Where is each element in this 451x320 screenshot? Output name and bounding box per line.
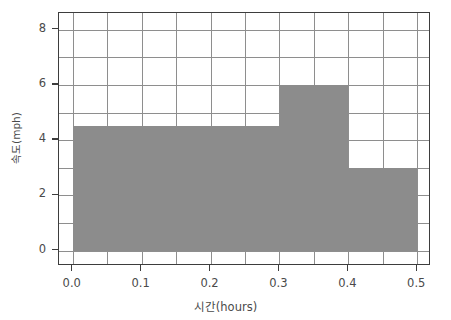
x-tick-mark	[140, 265, 141, 271]
y-tick-mark	[52, 249, 58, 250]
plot-area	[58, 12, 430, 265]
chart-figure: 0.00.10.20.30.40.5 02468 시간(hours) 속도(mp…	[0, 0, 451, 320]
x-tick-label: 0.3	[258, 276, 298, 290]
y-tick-mark	[52, 138, 58, 139]
bar-3	[348, 168, 417, 251]
gridline-horizontal	[59, 113, 429, 114]
y-axis-title-wrapper: 속도(mph)	[4, 100, 26, 176]
y-tick-label: 6	[24, 76, 46, 90]
gridline-horizontal	[59, 57, 429, 58]
y-tick-mark	[52, 28, 58, 29]
x-tick-label: 0.1	[121, 276, 161, 290]
x-tick-mark	[209, 265, 210, 271]
x-tick-mark	[71, 265, 72, 271]
bar-1	[73, 126, 280, 250]
x-tick-mark	[416, 265, 417, 271]
x-tick-label: 0.2	[190, 276, 230, 290]
x-axis-title: 시간(hours)	[0, 298, 451, 314]
y-tick-label: 0	[24, 242, 46, 256]
x-tick-label: 0.4	[327, 276, 367, 290]
y-axis-title: 속도(mph)	[8, 112, 23, 164]
bar-2	[279, 85, 348, 251]
gridline-horizontal	[59, 251, 429, 252]
gridline-horizontal	[59, 85, 429, 86]
gridline-horizontal	[59, 30, 429, 31]
x-tick-label: 0.5	[396, 276, 436, 290]
y-tick-mark	[52, 194, 58, 195]
y-tick-label: 8	[24, 21, 46, 35]
x-tick-mark	[347, 265, 348, 271]
y-tick-label: 4	[24, 131, 46, 145]
y-tick-label: 2	[24, 186, 46, 200]
gridline-vertical	[417, 13, 418, 264]
x-tick-mark	[278, 265, 279, 271]
x-tick-label: 0.0	[52, 276, 92, 290]
y-tick-mark	[52, 83, 58, 84]
